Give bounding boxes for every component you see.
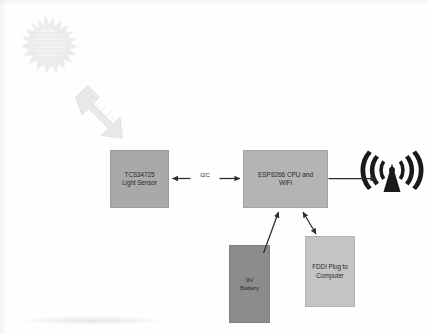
connector-layer — [0, 0, 427, 334]
connector-ftdi-to-cpu — [303, 212, 316, 234]
diagram-canvas: TCS34725 Light Sensor ESP8266 CPU and Wi… — [0, 0, 427, 334]
connector-battery-to-cpu — [264, 212, 279, 253]
